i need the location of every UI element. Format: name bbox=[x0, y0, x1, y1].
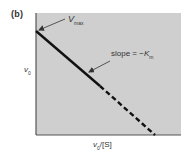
slope-annotation: slope = −Km bbox=[111, 49, 153, 60]
x-axis-label: v0/[S] bbox=[93, 140, 112, 151]
y-axis-label: v0 bbox=[24, 65, 31, 76]
y-label-sub: 0 bbox=[28, 70, 31, 76]
vmax-sub: max bbox=[74, 20, 83, 26]
vmax-annotation: Vmax bbox=[68, 14, 83, 26]
eadie-hofstee-figure: (b) Vmax slope = −Km v0 v0/[S] bbox=[0, 0, 190, 160]
slope-sub: m bbox=[149, 54, 153, 60]
panel-label: (b) bbox=[11, 9, 23, 19]
plot-canvas bbox=[0, 0, 190, 160]
x-label-rest: /[S] bbox=[100, 140, 112, 149]
plot-area bbox=[36, 13, 181, 135]
slope-prefix: slope = − bbox=[111, 49, 144, 58]
